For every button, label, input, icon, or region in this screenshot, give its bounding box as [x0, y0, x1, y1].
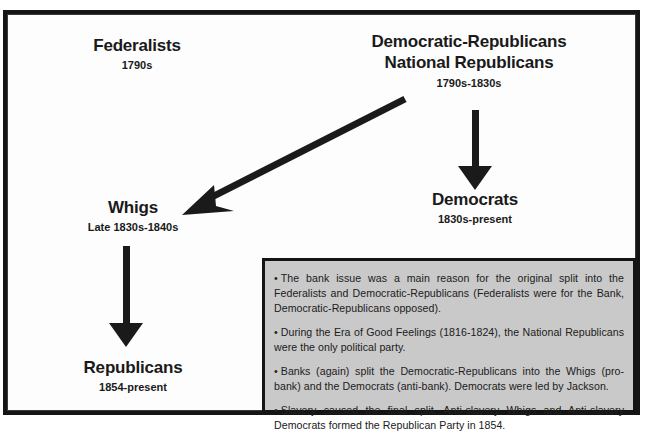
node-republicans-title: Republicans [38, 359, 228, 378]
arrow-head [458, 166, 492, 190]
node-democratic-republicans-dates: 1790s-1830s [324, 77, 614, 89]
arrow-diagonal-icon-demrep-to-whigs [168, 93, 413, 223]
note-item-3: •Banks (again) split the Democratic-Repu… [274, 364, 624, 394]
node-democratic-republicans-title-line2: National Republicans [324, 52, 614, 73]
arrow-down-icon-whigs-to-republicans [109, 246, 143, 347]
arrow-shaft [123, 246, 130, 325]
bullet-icon: • [274, 272, 278, 284]
note-item-4: •Slavery caused the final split. Anti-sl… [274, 403, 624, 433]
arrow-head [109, 323, 143, 347]
note-item-2-text: During the Era of Good Feelings (1816-18… [274, 326, 624, 353]
node-republicans: Republicans 1854-present [38, 359, 228, 393]
node-federalists-dates: 1790s [42, 59, 232, 71]
arrow-shaft [472, 110, 479, 168]
node-democratic-republicans: Democratic-Republicans National Republic… [324, 31, 614, 89]
note-item-1: •The bank issue was a main reason for th… [274, 271, 624, 316]
diagram-outer-frame: Federalists 1790s Democratic-Republicans… [3, 10, 640, 415]
node-federalists: Federalists 1790s [42, 37, 232, 71]
node-federalists-title: Federalists [42, 37, 232, 56]
bullet-icon: • [274, 365, 278, 377]
note-item-3-text: Banks (again) split the Democratic-Repub… [274, 365, 624, 392]
arrow-down-icon-demrep-to-democrats [458, 110, 492, 190]
diagram-canvas: Federalists 1790s Democratic-Republicans… [0, 0, 646, 433]
note-item-4-text: Slavery caused the final split. Anti-sla… [274, 404, 624, 431]
node-democratic-republicans-title-line1: Democratic-Republicans [324, 31, 614, 52]
note-item-1-text: The bank issue was a main reason for the… [274, 272, 624, 314]
node-republicans-dates: 1854-present [38, 381, 228, 393]
note-item-2: •During the Era of Good Feelings (1816-1… [274, 325, 624, 355]
bullet-icon: • [274, 326, 278, 338]
bullet-icon: • [274, 404, 278, 416]
diagram-inner-frame: Federalists 1790s Democratic-Republicans… [7, 14, 636, 411]
notes-box: •The bank issue was a main reason for th… [262, 258, 636, 413]
